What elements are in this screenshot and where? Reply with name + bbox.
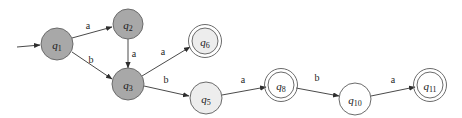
state-label-subscript-q5: 5 [207, 97, 211, 106]
state-node-q6[interactable]: q6 [189, 25, 222, 58]
state-label-subscript-q10: 10 [354, 98, 362, 107]
state-node-q3[interactable]: q3 [112, 68, 144, 100]
start-arrow [17, 45, 40, 47]
state-node-q2[interactable]: q2 [113, 9, 143, 39]
state-node-q1[interactable]: q1 [41, 28, 73, 60]
state-node-q11[interactable]: q11 [414, 69, 447, 102]
states-layer: q1q2q3q6q5q8q10q11 [41, 9, 447, 115]
transition-label-q3-q6: a [161, 46, 166, 57]
automaton-diagram: abaababa q1q2q3q6q5q8q10q11 [0, 0, 462, 118]
transition-edge-q3-q6 [142, 47, 190, 76]
transition-label-q8-q10: b [315, 72, 320, 83]
transition-edge-q8-q10 [296, 88, 339, 96]
transition-edge-q10-q11 [371, 87, 415, 96]
state-node-q8[interactable]: q8 [265, 69, 298, 102]
state-label-subscript-q8: 8 [282, 84, 286, 93]
state-node-q5[interactable]: q5 [190, 82, 222, 114]
state-label-subscript-q3: 3 [129, 83, 133, 92]
state-label-subscript-q6: 6 [206, 40, 210, 49]
state-label-subscript-q2: 2 [129, 23, 133, 32]
transition-label-q1-q2: a [86, 20, 91, 31]
state-node-q10[interactable]: q10 [339, 83, 371, 115]
transition-edge-q3-q5 [144, 86, 189, 96]
state-label-subscript-q1: 1 [58, 43, 62, 52]
transition-edge-q5-q8 [222, 87, 266, 95]
transition-edge-q1-q2 [72, 27, 112, 38]
start-arrow-layer [17, 45, 40, 47]
automaton-canvas: abaababa q1q2q3q6q5q8q10q11 [0, 0, 462, 118]
transition-label-q1-q3: b [89, 54, 94, 65]
transition-label-q5-q8: a [241, 74, 246, 85]
state-label-subscript-q11: 11 [429, 84, 437, 93]
transition-label-q10-q11: a [391, 74, 396, 85]
transition-label-q2-q3: a [132, 48, 137, 59]
transition-label-q3-q5: b [164, 74, 169, 85]
